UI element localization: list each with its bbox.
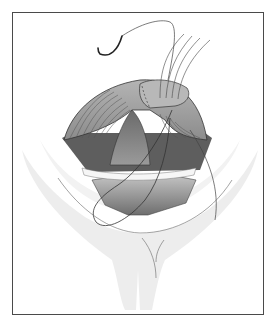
- lower-tissue-flap: [92, 175, 196, 215]
- needle-icon: [98, 36, 122, 55]
- surgical-illustration: [0, 0, 272, 324]
- suture-thread: [122, 21, 174, 80]
